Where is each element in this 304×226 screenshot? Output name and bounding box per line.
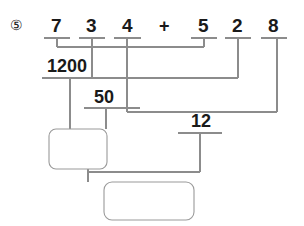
answer-box-2-shape[interactable] [104, 182, 194, 220]
worksheet-canvas: ⑤ 7 3 4 + 5 2 8 1200 50 12 [0, 0, 304, 226]
answer-box-1-shape[interactable] [49, 129, 107, 169]
result-50-tick [84, 108, 140, 129]
expression-token-7: 7 [51, 16, 62, 35]
bracket-3-times-2 [92, 38, 238, 78]
result-1200-tick [42, 78, 95, 129]
result-12-tick [88, 133, 222, 172]
expression-token-3: 3 [86, 16, 97, 35]
intermediate-result-12: 12 [191, 112, 211, 130]
expression-token-8: 8 [268, 16, 279, 35]
expression-token-2: 2 [232, 16, 243, 35]
expression-token-4: 4 [122, 16, 133, 35]
problem-number-marker: ⑤ [10, 18, 23, 32]
bracket-4-times-8 [127, 38, 277, 112]
bracket-7-times-5 [57, 38, 204, 47]
intermediate-result-1200: 1200 [47, 57, 87, 75]
expression-token-5: 5 [198, 16, 209, 35]
expression-operator-plus: + [159, 17, 170, 35]
bracket-diagram-lines [0, 0, 304, 226]
intermediate-result-50: 50 [94, 88, 114, 106]
